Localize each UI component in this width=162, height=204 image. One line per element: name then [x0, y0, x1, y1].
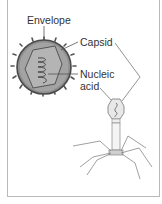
label-nucleic-acid-line1: Nucleic [80, 69, 114, 80]
label-nucleic-acid-line2: acid [80, 81, 99, 92]
phage-tail [112, 123, 120, 150]
enveloped-virus [11, 26, 78, 96]
label-capsid: Capsid [80, 37, 113, 48]
label-envelope: Envelope [27, 15, 71, 26]
bacteriophage [73, 43, 152, 179]
virus-diagram [0, 0, 162, 204]
phage-head [108, 99, 124, 119]
